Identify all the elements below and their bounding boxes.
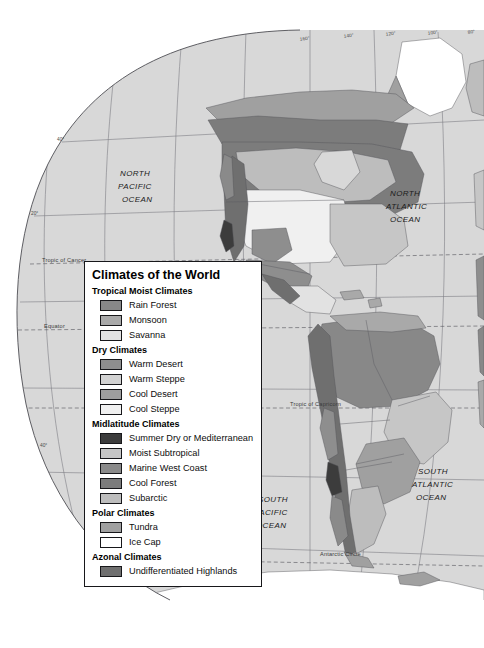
- legend-title: Climates of the World: [92, 268, 254, 283]
- legend-label: Cool Forest: [129, 478, 177, 489]
- legend-item-marine-west-coast[interactable]: Marine West Coast: [92, 461, 254, 476]
- legend-swatch-warm-steppe: [100, 374, 122, 385]
- legend-item-subarctic[interactable]: Subarctic: [92, 491, 254, 506]
- legend-label: Rain Forest: [129, 300, 177, 311]
- legend-swatch-rain-forest: [100, 300, 122, 311]
- legend-label: Ice Cap: [129, 537, 161, 548]
- legend-item-warm-desert[interactable]: Warm Desert: [92, 357, 254, 372]
- legend-swatch-cool-steppe: [100, 404, 122, 415]
- equator-label: Equator: [44, 323, 65, 329]
- legend-item-rain-forest[interactable]: Rain Forest: [92, 298, 254, 313]
- ocean-label-line: ATLANTIC: [385, 202, 427, 211]
- legend-label: Tundra: [129, 522, 158, 533]
- antarctic-circle-label: Antarctic Circle: [320, 551, 361, 557]
- legend-swatch-summer-dry-mediterranean: [100, 433, 122, 444]
- legend-swatch-marine-west-coast: [100, 463, 122, 474]
- legend-group-heading: Dry Climates: [92, 344, 254, 357]
- ocean-label-line: SOUTH: [258, 495, 288, 504]
- ocean-label-line: PACIFIC: [118, 182, 152, 191]
- legend-label: Subarctic: [129, 493, 167, 504]
- legend-item-ice-cap[interactable]: Ice Cap: [92, 535, 254, 550]
- legend-label: Savanna: [129, 330, 165, 341]
- legend-swatch-warm-desert: [100, 359, 122, 370]
- map-legend: Climates of the World Tropical Moist Cli…: [84, 261, 262, 587]
- ocean-label-line: NORTH: [120, 169, 150, 178]
- ocean-label-line: SOUTH: [418, 467, 448, 476]
- legend-item-warm-steppe[interactable]: Warm Steppe: [92, 372, 254, 387]
- legend-swatch-tundra: [100, 522, 122, 533]
- legend-group-heading: Tropical Moist Climates: [92, 285, 254, 298]
- legend-item-cool-forest[interactable]: Cool Forest: [92, 476, 254, 491]
- ocean-label-north-pacific: NORTH PACIFIC OCEAN: [118, 169, 152, 204]
- legend-item-cool-steppe[interactable]: Cool Steppe: [92, 402, 254, 417]
- latitude-label: 40°: [57, 137, 64, 142]
- legend-swatch-subarctic: [100, 493, 122, 504]
- legend-swatch-cool-desert: [100, 389, 122, 400]
- legend-label: Cool Steppe: [129, 404, 180, 415]
- tropic-of-cancer-label: Tropic of Cancer: [42, 257, 86, 263]
- legend-swatch-moist-subtropical: [100, 448, 122, 459]
- legend-item-monsoon[interactable]: Monsoon: [92, 313, 254, 328]
- legend-swatch-undifferentiated-highlands: [100, 566, 122, 577]
- ocean-label-line: OCEAN: [416, 493, 446, 502]
- ocean-label-line: ATLANTIC: [411, 480, 453, 489]
- legend-label: Warm Desert: [129, 359, 183, 370]
- legend-swatch-cool-forest: [100, 478, 122, 489]
- legend-item-savanna[interactable]: Savanna: [92, 328, 254, 343]
- legend-item-tundra[interactable]: Tundra: [92, 520, 254, 535]
- legend-label: Summer Dry or Mediterranean: [129, 433, 253, 444]
- ocean-label-line: NORTH: [390, 189, 420, 198]
- legend-label: Cool Desert: [129, 389, 178, 400]
- legend-item-cool-desert[interactable]: Cool Desert: [92, 387, 254, 402]
- map-page: NORTH PACIFIC OCEAN NORTH ATLANTIC OCEAN…: [0, 0, 484, 648]
- legend-item-moist-subtropical[interactable]: Moist Subtropical: [92, 446, 254, 461]
- legend-label: Moist Subtropical: [129, 448, 199, 459]
- latitude-label: 20°: [31, 211, 38, 216]
- legend-swatch-monsoon: [100, 315, 122, 326]
- legend-swatch-ice-cap: [100, 537, 122, 548]
- legend-group-heading: Midlatitude Climates: [92, 418, 254, 431]
- legend-label: Monsoon: [129, 315, 167, 326]
- legend-label: Warm Steppe: [129, 374, 185, 385]
- legend-label: Marine West Coast: [129, 463, 207, 474]
- ocean-label-line: OCEAN: [390, 215, 420, 224]
- legend-label: Undifferentiated Highlands: [129, 566, 237, 577]
- legend-group-heading: Polar Climates: [92, 507, 254, 520]
- legend-group-heading: Azonal Climates: [92, 551, 254, 564]
- ocean-label-line: OCEAN: [122, 195, 152, 204]
- tropic-of-capricorn-label: Tropic of Capricorn: [290, 401, 341, 407]
- legend-item-summer-dry-mediterranean[interactable]: Summer Dry or Mediterranean: [92, 431, 254, 446]
- legend-item-undifferentiated-highlands[interactable]: Undifferentiated Highlands: [92, 564, 254, 579]
- latitude-label: 40°: [40, 443, 47, 448]
- legend-swatch-savanna: [100, 330, 122, 341]
